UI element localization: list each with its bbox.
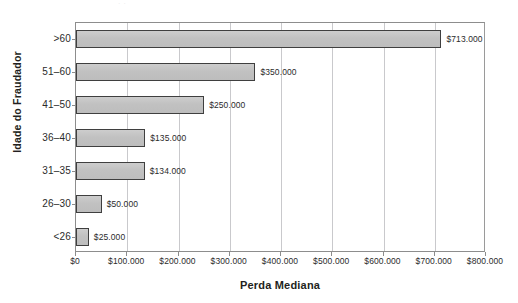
- x-axis-tick-mark: [383, 252, 384, 256]
- x-axis-tick-mark: [229, 252, 230, 256]
- y-axis-tick-label: <26: [25, 230, 71, 241]
- y-axis-tick-label: 41–50: [25, 99, 71, 110]
- bar-row: $250.000: [76, 96, 484, 114]
- bar-chart-figure: · · Idade do Fraudador >6051–6041–5036–4…: [0, 0, 518, 303]
- x-axis-tick-mark: [485, 252, 486, 256]
- y-axis-tick-mark: [72, 138, 76, 139]
- x-axis-tick-label: $800.000: [467, 256, 503, 266]
- scan-artifact-text: · ·: [118, 0, 398, 7]
- y-axis-tick-label: 26–30: [25, 197, 71, 208]
- bar[interactable]: [76, 162, 145, 180]
- y-axis-tick-labels: >6051–6041–5036–4031–3526–30<26: [19, 22, 71, 252]
- x-axis-tick-labels: $0$100.000$200.000$300.000$400.000$500.0…: [75, 256, 485, 270]
- bar-row: $25.000: [76, 228, 484, 246]
- bar-row: $713.000: [76, 30, 484, 48]
- bar-value-label: $25.000: [94, 232, 125, 242]
- x-axis-tick-mark: [75, 252, 76, 256]
- bar-value-label: $135.000: [150, 133, 186, 143]
- bar[interactable]: [76, 195, 102, 213]
- x-axis-tick-mark: [331, 252, 332, 256]
- bar-row: $50.000: [76, 195, 484, 213]
- y-axis-tick-label: 51–60: [25, 66, 71, 77]
- bar-value-label: $134.000: [150, 166, 186, 176]
- bar-value-label: $713.000: [446, 34, 482, 44]
- y-axis-tick-mark: [72, 204, 76, 205]
- bar[interactable]: [76, 129, 145, 147]
- bar[interactable]: [76, 228, 89, 246]
- y-axis-tick-mark: [72, 39, 76, 40]
- x-axis-tick-label: $400.000: [262, 256, 298, 266]
- x-axis-tick-mark: [280, 252, 281, 256]
- y-axis-tick-label: 36–40: [25, 132, 71, 143]
- bar-value-label: $50.000: [107, 199, 138, 209]
- y-axis-tick-label: 31–35: [25, 164, 71, 175]
- bar-value-label: $250.000: [209, 100, 245, 110]
- bar-row: $350.000: [76, 63, 484, 81]
- x-axis-tick-label: $500.000: [313, 256, 349, 266]
- bar-row: $134.000: [76, 162, 484, 180]
- x-axis-tick-label: $700.000: [416, 256, 452, 266]
- x-axis-tick-mark: [126, 252, 127, 256]
- x-axis-title: Perda Mediana: [75, 279, 485, 291]
- bar-row: $135.000: [76, 129, 484, 147]
- x-axis-tick-label: $0: [70, 256, 80, 266]
- y-axis-tick-mark: [72, 72, 76, 73]
- x-axis-tick-mark: [434, 252, 435, 256]
- y-axis-tick-label: >60: [25, 33, 71, 44]
- x-axis-tick-label: $300.000: [211, 256, 247, 266]
- bar-value-label: $350.000: [260, 67, 296, 77]
- y-axis-tick-mark: [72, 237, 76, 238]
- x-axis-tick-label: $200.000: [159, 256, 195, 266]
- x-axis-tick-mark: [178, 252, 179, 256]
- y-axis-tick-mark: [72, 171, 76, 172]
- y-axis-tick-mark: [72, 105, 76, 106]
- x-axis-tick-label: $100.000: [108, 256, 144, 266]
- x-axis-tick-label: $600.000: [364, 256, 400, 266]
- bar[interactable]: [76, 96, 204, 114]
- bar[interactable]: [76, 63, 255, 81]
- plot-area: $713.000$350.000$250.000$135.000$134.000…: [75, 22, 485, 252]
- bar[interactable]: [76, 30, 441, 48]
